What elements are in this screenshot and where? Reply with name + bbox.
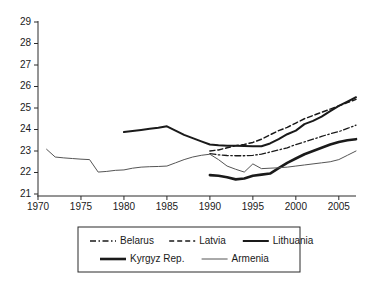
y-tick-label: 24: [20, 123, 32, 134]
legend-label-belarus: Belarus: [120, 235, 154, 246]
y-axis: 212223242526272829: [20, 16, 38, 199]
y-tick-label: 29: [20, 16, 32, 27]
x-tick-label: 2005: [328, 201, 351, 212]
x-tick-label: 1980: [113, 201, 136, 212]
series-line-belarus: [210, 125, 356, 156]
series-lines: [47, 97, 356, 179]
legend-label-armenia: Armenia: [232, 253, 270, 264]
x-axis: 19701975198019851990199520002005: [27, 196, 356, 212]
chart-canvas: 212223242526272829 197019751980198519901…: [0, 0, 368, 285]
y-tick-label: 27: [20, 59, 32, 70]
legend-label-latvia: Latvia: [199, 235, 226, 246]
y-tick-label: 25: [20, 102, 32, 113]
x-tick-label: 1995: [242, 201, 265, 212]
legend-label-lithuania: Lithuania: [273, 235, 314, 246]
x-tick-label: 1990: [199, 201, 222, 212]
line-chart: 212223242526272829 197019751980198519901…: [0, 0, 368, 285]
y-tick-label: 26: [20, 80, 32, 91]
chart-legend: BelarusLatviaLithuaniaKyrgyz Rep.Armenia: [78, 227, 314, 272]
y-tick-label: 23: [20, 145, 32, 156]
y-tick-label: 22: [20, 166, 32, 177]
series-line-lithuania: [124, 97, 356, 146]
y-tick-label: 28: [20, 37, 32, 48]
y-tick-label: 21: [20, 188, 32, 199]
x-tick-label: 1970: [27, 201, 50, 212]
x-tick-label: 1985: [156, 201, 179, 212]
legend-label-kyrgyz-rep: Kyrgyz Rep.: [130, 253, 184, 264]
legend-border: [78, 227, 300, 272]
x-tick-label: 1975: [70, 201, 93, 212]
x-tick-label: 2000: [285, 201, 308, 212]
